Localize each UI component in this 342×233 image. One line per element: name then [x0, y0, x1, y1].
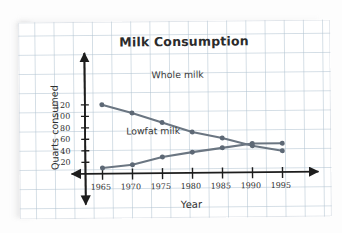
y-tick-label-20: 20 [60, 158, 70, 167]
chart-stage: Milk Consumption Whole milk Lowfat milk … [18, 20, 332, 220]
x-tick-label-1985: 1985 [211, 181, 231, 190]
x-tick-label-1990: 1990 [241, 181, 261, 190]
y-axis [84, 53, 85, 205]
x-tick-label-1975: 1975 [151, 182, 171, 191]
series-label-whole-milk: Whole milk [152, 69, 204, 80]
series-label-lowfat-milk: Lowfat milk [126, 125, 180, 137]
chart-title: Milk Consumption [119, 33, 249, 49]
x-tick-label-1995: 1995 [271, 181, 291, 190]
x-tick-label-1980: 1980 [181, 182, 201, 191]
y-tick-label-80: 80 [60, 124, 70, 133]
grid-paper-card: Milk Consumption Whole milk Lowfat milk … [18, 20, 332, 220]
x-tick-label-1965: 1965 [91, 183, 111, 192]
y-axis-title: Quarts consumed [49, 85, 61, 170]
x-axis-title: Year [181, 199, 202, 210]
x-tick-label-1970: 1970 [121, 182, 141, 191]
chart-image: Milk Consumption Whole milk Lowfat milk … [0, 0, 342, 233]
y-tick-label-40: 40 [60, 147, 70, 156]
series-lowfat-milk [100, 141, 285, 171]
y-tick-label-60: 60 [60, 135, 70, 144]
x-axis [72, 172, 319, 174]
